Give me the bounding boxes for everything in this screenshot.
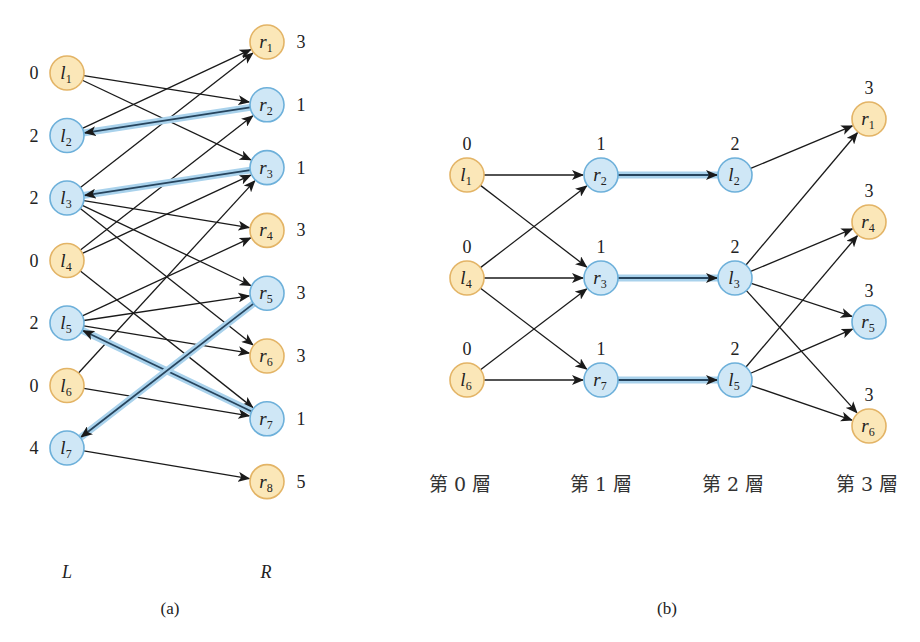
distance-label-r2: 1 <box>297 95 306 115</box>
matching-edge-line <box>85 107 250 132</box>
distance-label-r5: 3 <box>297 283 306 303</box>
distance-label-r3: 1 <box>297 158 306 178</box>
panel-b-nodes: l10l40l60r21r31r71l22l32l52r13r43r53r63 <box>450 78 886 443</box>
node-r4: r4 <box>250 213 284 247</box>
distance-label-l1: 0 <box>463 134 472 154</box>
distance-label-r4: 3 <box>865 181 874 201</box>
node-r1: r1 <box>852 102 886 136</box>
node-r6: r6 <box>852 409 886 443</box>
layer-label-1: 第 1 層 <box>570 473 632 495</box>
panel-b-edges <box>480 126 857 420</box>
distance-label-r6: 3 <box>865 385 874 405</box>
distance-label-r7: 1 <box>597 339 606 359</box>
distance-label-l1: 0 <box>30 63 39 83</box>
node-r4: r4 <box>852 205 886 239</box>
edge-l3-r1 <box>746 133 857 265</box>
distance-label-r7: 1 <box>297 409 306 429</box>
node-l5: l5 <box>50 306 84 340</box>
edge-l5-r5 <box>84 296 249 321</box>
layer-label-3: 第 3 層 <box>836 473 898 495</box>
distance-label-r5: 3 <box>865 281 874 301</box>
node-r8: r8 <box>250 465 284 499</box>
node-r1: r1 <box>250 25 284 59</box>
node-l6: l6 <box>450 363 484 397</box>
distance-label-l4: 0 <box>30 251 39 271</box>
node-r2: r2 <box>584 158 618 192</box>
matching-edge-r3-l3 <box>85 170 250 195</box>
edge-l3-r4 <box>751 229 853 272</box>
node-l4: l4 <box>50 244 84 278</box>
left-set-label: L <box>61 562 72 582</box>
panel-a: l10l22l32l40l52l60l74r13r21r31r43r53r63r… <box>30 25 306 618</box>
node-r2: r2 <box>250 88 284 122</box>
node-l2: l2 <box>50 119 84 153</box>
node-r5: r5 <box>852 305 886 339</box>
edge-l3-r5 <box>751 283 852 316</box>
edge-l4-r3 <box>82 175 250 253</box>
distance-label-r4: 3 <box>297 220 306 240</box>
edge-l3-r5 <box>82 205 250 285</box>
distance-label-r1: 3 <box>297 32 306 52</box>
node-r3: r3 <box>584 261 618 295</box>
node-r5: r5 <box>250 276 284 310</box>
node-r3: r3 <box>250 151 284 185</box>
bipartite-bfs-diagram: l10l22l32l40l52l60l74r13r21r31r43r53r63r… <box>0 0 920 642</box>
panel-b: l10l40l60r21r31r71l22l32l52r13r43r53r63 … <box>429 78 898 618</box>
node-l3: l3 <box>718 261 752 295</box>
node-r7: r7 <box>250 402 284 436</box>
matching-edge-r2-l2 <box>85 107 250 132</box>
edge-l2-r1 <box>751 126 853 169</box>
distance-label-l6: 0 <box>30 376 39 396</box>
panel-a-nodes: l10l22l32l40l52l60l74r13r21r31r43r53r63r… <box>30 25 306 499</box>
distance-label-r1: 3 <box>865 78 874 98</box>
node-l1: l1 <box>50 56 84 90</box>
panel-b-caption: (b) <box>657 599 677 618</box>
node-l5: l5 <box>718 363 752 397</box>
distance-label-l7: 4 <box>30 438 39 458</box>
node-r7: r7 <box>584 363 618 397</box>
panel-a-caption: (a) <box>161 599 180 618</box>
node-l2: l2 <box>718 158 752 192</box>
distance-label-r6: 3 <box>297 346 306 366</box>
edge-l5-r4 <box>746 236 857 367</box>
node-l4: l4 <box>450 261 484 295</box>
panel-b-layer-labels: 第 0 層第 1 層第 2 層第 3 層 <box>429 473 898 495</box>
panel-b-matching-edges <box>618 175 717 380</box>
distance-label-l2: 2 <box>731 134 740 154</box>
edge-l7-r8 <box>84 451 249 479</box>
edge-l2-r1 <box>82 50 250 129</box>
matching-edge-line <box>81 304 253 437</box>
distance-label-r8: 5 <box>297 472 306 492</box>
distance-label-l3: 2 <box>30 188 39 208</box>
matching-edge-r5-l7 <box>81 304 253 437</box>
distance-label-r2: 1 <box>597 134 606 154</box>
layer-label-2: 第 2 層 <box>702 473 764 495</box>
distance-label-l6: 0 <box>463 339 472 359</box>
node-l1: l1 <box>450 158 484 192</box>
layer-label-0: 第 0 層 <box>429 473 491 495</box>
node-l3: l3 <box>50 181 84 215</box>
distance-label-l5: 2 <box>30 313 39 333</box>
node-r6: r6 <box>250 339 284 373</box>
node-l6: l6 <box>50 369 84 403</box>
right-set-label: R <box>260 562 272 582</box>
edge-l5-r5 <box>751 329 853 373</box>
distance-label-r3: 1 <box>597 237 606 257</box>
matching-edge-line <box>85 170 250 195</box>
distance-label-l2: 2 <box>30 126 39 146</box>
node-l7: l7 <box>50 431 84 465</box>
distance-label-l5: 2 <box>731 339 740 359</box>
distance-label-l3: 2 <box>731 237 740 257</box>
distance-label-l4: 0 <box>463 237 472 257</box>
